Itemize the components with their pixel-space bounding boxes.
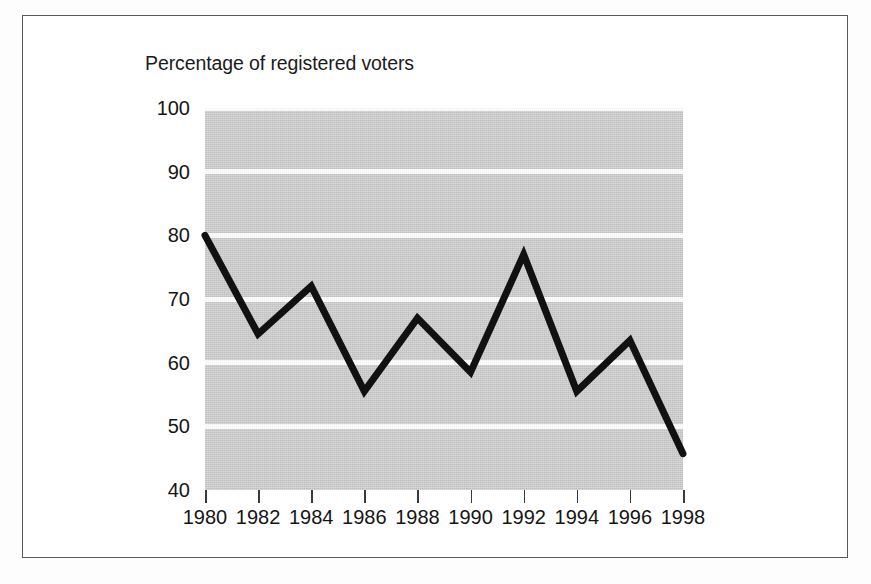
y-tick-label-50: 50 bbox=[130, 416, 190, 436]
x-tick-mark-1992 bbox=[524, 490, 526, 503]
y-tick-label-100: 100 bbox=[130, 98, 190, 118]
x-tick-mark-1988 bbox=[417, 490, 419, 503]
x-tick-label-1998: 1998 bbox=[643, 506, 723, 528]
x-axis-tick-labels: 1980198219841986198819901992199419961998 bbox=[205, 506, 683, 536]
y-tick-label-40: 40 bbox=[130, 480, 190, 500]
y-tick-label-70: 70 bbox=[130, 289, 190, 309]
x-tick-mark-1990 bbox=[471, 490, 473, 503]
data-series-line bbox=[205, 108, 683, 490]
x-tick-mark-1984 bbox=[311, 490, 313, 503]
y-tick-label-60: 60 bbox=[130, 353, 190, 373]
y-tick-label-80: 80 bbox=[130, 225, 190, 245]
x-tick-mark-1994 bbox=[577, 490, 579, 503]
chart-title: Percentage of registered voters bbox=[145, 52, 414, 75]
y-axis-tick-labels: 405060708090100 bbox=[128, 108, 190, 490]
x-tick-mark-1986 bbox=[364, 490, 366, 503]
x-tick-mark-1998 bbox=[683, 490, 685, 503]
chart-figure: Percentage of registered voters 40506070… bbox=[0, 0, 871, 584]
y-tick-label-90: 90 bbox=[130, 162, 190, 182]
series-polyline bbox=[205, 235, 683, 453]
x-tick-mark-1982 bbox=[258, 490, 260, 503]
x-axis-tick-marks bbox=[205, 490, 683, 503]
x-tick-mark-1996 bbox=[630, 490, 632, 503]
x-tick-mark-1980 bbox=[205, 490, 207, 503]
